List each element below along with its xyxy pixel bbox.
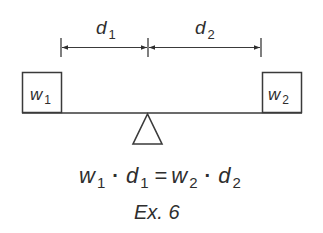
- equation: w1·d1=w2·d2: [79, 163, 241, 191]
- d1-label: d1: [96, 17, 116, 42]
- d2-label: d2: [195, 17, 215, 42]
- arrowhead-right-icon: [254, 45, 260, 49]
- w1-label: w1: [30, 85, 51, 107]
- weight-w2: w2: [263, 73, 302, 113]
- arrowhead-left-icon: [149, 45, 155, 49]
- fulcrum-triangle-icon: [133, 114, 162, 144]
- weight-w1: w1: [23, 73, 62, 113]
- figure-caption: Ex. 6: [134, 201, 180, 223]
- dimension-d2: d2: [149, 17, 261, 57]
- arrowhead-left-icon: [62, 45, 68, 49]
- dimension-d1: d1: [61, 17, 148, 57]
- w2-label: w2: [268, 85, 289, 107]
- lever-diagram: d1 d2 w1 w2 w1·d1=w2·d2 Ex. 6: [0, 0, 323, 233]
- arrowhead-right-icon: [141, 45, 147, 49]
